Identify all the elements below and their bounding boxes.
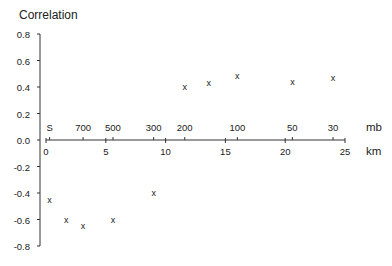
x-tick-label-km: 0 [43, 146, 48, 157]
x-tick-label-mb: 500 [105, 122, 121, 133]
data-point-marker: x [182, 82, 187, 92]
data-point-marker: x [235, 71, 240, 81]
x-tick-label-km: 20 [280, 146, 291, 157]
y-tick-label: 0.0 [17, 135, 30, 146]
x-axis-label-mb: mb [366, 121, 382, 133]
y-tick-label: 0.2 [17, 109, 30, 120]
y-tick-label: 0.4 [17, 82, 30, 93]
y-tick-label: -0.2 [14, 162, 30, 173]
x-tick-label-mb: 700 [75, 122, 91, 133]
data-point-marker: x [151, 188, 156, 198]
x-tick-label-mb: 100 [229, 122, 245, 133]
y-tick-label: -0.8 [14, 241, 30, 252]
y-tick-label: -0.6 [14, 215, 30, 226]
scatter-chart: 0.80.60.40.20.0-0.2-0.4-0.6-0.8051015202… [0, 0, 392, 266]
data-point-marker: x [81, 221, 86, 231]
x-tick-label-mb: 50 [287, 122, 298, 133]
x-tick-label-mb: 200 [177, 122, 193, 133]
y-tick-label: -0.4 [14, 188, 30, 199]
y-tick-label: 0.8 [17, 29, 30, 40]
data-point-marker: x [331, 73, 336, 83]
x-tick-label-km: 10 [160, 146, 171, 157]
data-point-marker: x [290, 77, 295, 87]
x-tick-label-km: 25 [340, 146, 351, 157]
x-axis-label-km: km [366, 145, 381, 157]
x-tick-label-mb: 30 [328, 122, 339, 133]
x-tick-label-mb: 300 [146, 122, 162, 133]
x-tick-label-km: 15 [220, 146, 231, 157]
data-point-marker: x [47, 195, 52, 205]
data-point-marker: x [111, 215, 116, 225]
x-tick-label-mb: S [46, 122, 52, 133]
data-point-marker: x [64, 215, 69, 225]
x-tick-label-km: 5 [103, 146, 108, 157]
y-tick-label: 0.6 [17, 56, 30, 67]
data-point-marker: x [206, 78, 211, 88]
